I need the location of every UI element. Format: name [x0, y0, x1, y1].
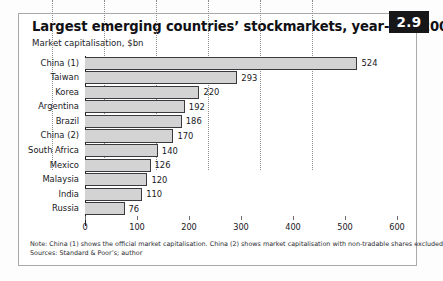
- bar-value-label: 76: [129, 204, 140, 214]
- bar-value-label: 170: [177, 131, 193, 141]
- category-label: China (1): [41, 57, 79, 70]
- bar-row: China (1)524: [85, 57, 377, 70]
- x-tick-200: [189, 216, 190, 220]
- bar-row: South Africa140: [85, 144, 178, 157]
- x-tick-300: [241, 216, 242, 220]
- bar-row: Taiwan293: [85, 71, 257, 84]
- x-tick-label: 400: [285, 222, 301, 232]
- category-label: China (2): [41, 129, 79, 142]
- bar-value-label: 186: [186, 116, 202, 126]
- figure-number-badge: 2.9: [389, 11, 429, 33]
- x-tick-400: [293, 216, 294, 220]
- bar-value-label: 192: [189, 102, 205, 112]
- bar-value-label: 293: [241, 73, 257, 83]
- bar-row: Mexico126: [85, 159, 171, 172]
- bar-rows: China (1)524Taiwan293Korea220Argentina19…: [85, 56, 397, 216]
- category-label: Russia: [52, 202, 79, 215]
- bar: [85, 202, 125, 215]
- bar-row: Argentina192: [85, 100, 205, 113]
- bar-row: India110: [85, 188, 162, 201]
- category-label: Taiwan: [51, 71, 79, 84]
- plot-area: China (1)524Taiwan293Korea220Argentina19…: [85, 56, 397, 216]
- x-tick-label: 200: [181, 222, 197, 232]
- bar-value-label: 524: [361, 58, 377, 68]
- bar: [85, 173, 147, 186]
- x-tick-label: 100: [129, 222, 145, 232]
- bar: [85, 159, 151, 172]
- x-tick-600: [397, 216, 398, 220]
- bar-row: China (2)170: [85, 129, 193, 142]
- category-label: Korea: [55, 86, 79, 99]
- x-tick-label: 500: [337, 222, 353, 232]
- bar-row: Korea220: [85, 86, 219, 99]
- category-label: Brazil: [56, 115, 79, 128]
- x-axis: 0100200300400500600: [85, 216, 397, 234]
- category-label: India: [58, 188, 79, 201]
- bar: [85, 115, 182, 128]
- x-tick-100: [137, 216, 138, 220]
- bar: [85, 129, 173, 142]
- figure-root: 2.9 Largest emerging countries’ stockmar…: [0, 0, 443, 281]
- x-tick-0: [85, 216, 86, 220]
- bar: [85, 86, 199, 99]
- bar-value-label: 110: [146, 189, 162, 199]
- bar: [85, 57, 357, 70]
- bar-row: Malaysia120: [85, 173, 167, 186]
- category-label: Malaysia: [42, 173, 79, 186]
- bar-value-label: 126: [155, 160, 171, 170]
- bar-row: Brazil186: [85, 115, 202, 128]
- bar: [85, 188, 142, 201]
- chart-note: Note: China (1) shows the official marke…: [30, 240, 443, 248]
- category-label: Argentina: [38, 100, 79, 113]
- bar-value-label: 220: [203, 87, 219, 97]
- category-label: Mexico: [50, 159, 79, 172]
- bar: [85, 100, 185, 113]
- bar-value-label: 120: [151, 175, 167, 185]
- x-tick-label: 300: [233, 222, 249, 232]
- bar-row: Russia76: [85, 202, 139, 215]
- x-tick-label: 0: [82, 222, 87, 232]
- bar: [85, 71, 237, 84]
- chart-sources: Sources: Standard & Poor’s; author: [30, 249, 142, 257]
- bar-value-label: 140: [162, 146, 178, 156]
- category-label: South Africa: [28, 144, 79, 157]
- x-tick-500: [345, 216, 346, 220]
- bar: [85, 144, 158, 157]
- x-tick-label: 600: [389, 222, 405, 232]
